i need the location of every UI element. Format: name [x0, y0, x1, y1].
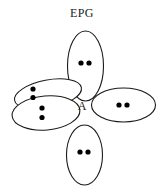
lower-left-lobe-electron-dot-2	[39, 115, 44, 120]
bottom-lobe-electron-dot-2	[85, 149, 90, 154]
bottom-lobe-electron-dot-1	[77, 149, 82, 154]
right-lobe	[92, 88, 156, 122]
figure-canvas: EPG A	[0, 0, 164, 195]
lower-left-lobe-electron-dot-1	[39, 105, 44, 110]
right-lobe-electron-dot-1	[116, 102, 121, 107]
diagram-svg: A	[0, 0, 164, 195]
center-atom-label: A	[78, 99, 87, 113]
right-lobe-electron-dot-2	[124, 102, 129, 107]
top-lobe-electron-dot-2	[86, 60, 91, 65]
upper-left-lobe-electron-dot-2	[30, 95, 35, 100]
upper-left-lobe-electron-dot-1	[30, 86, 35, 91]
bottom-lobe	[67, 125, 103, 185]
top-lobe-electron-dot-1	[78, 60, 83, 65]
electron-pair-geometry-diagram: A	[0, 0, 164, 195]
